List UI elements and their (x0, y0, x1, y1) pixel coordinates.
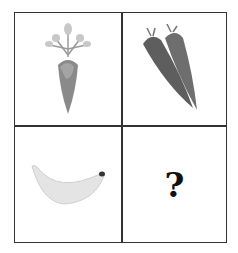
question-mark: ? (165, 165, 185, 205)
two-carrots-icon (135, 24, 215, 114)
banana-icon (28, 160, 108, 210)
cell-top-left (15, 13, 121, 125)
carrot-icon (38, 19, 98, 119)
cell-bottom-right: ? (123, 127, 226, 242)
cell-bottom-left (15, 127, 121, 242)
puzzle-grid: ? (14, 12, 227, 243)
cell-top-right (123, 13, 226, 125)
